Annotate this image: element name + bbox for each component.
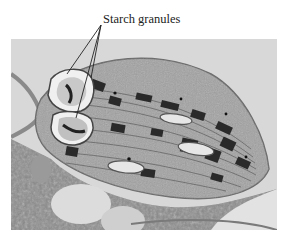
figure-label: Starch granules (103, 12, 180, 27)
chloroplast-micrograph (11, 39, 277, 230)
